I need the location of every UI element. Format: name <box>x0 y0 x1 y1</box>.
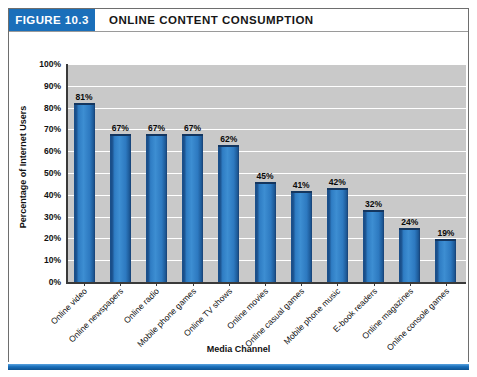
y-axis-tick-label: 50% <box>44 168 61 178</box>
figure-container: FIGURE 10.3 ONLINE CONTENT CONSUMPTION P… <box>8 8 469 362</box>
y-axis-tick-label: 100% <box>39 59 61 69</box>
y-axis-tick-label: 40% <box>44 190 61 200</box>
y-axis-tick-label: 80% <box>44 103 61 113</box>
y-axis-tick-labels: 100%90%80%70%60%50%40%30%20%10%0% <box>29 64 63 282</box>
gridline <box>68 173 466 174</box>
y-axis-tick-label: 90% <box>44 81 61 91</box>
y-axis-tick-label: 60% <box>44 146 61 156</box>
gridline <box>68 64 466 65</box>
gridline <box>68 217 466 218</box>
gridline <box>68 86 466 87</box>
y-axis-tick-label: 10% <box>44 255 61 265</box>
chart-region: Percentage of Internet Users 100%90%80%7… <box>9 32 468 363</box>
figure-title: ONLINE CONTENT CONSUMPTION <box>109 14 314 26</box>
figure-title-bar: ONLINE CONTENT CONSUMPTION <box>95 9 468 31</box>
gridline <box>68 195 466 196</box>
y-axis-tick-label: 0% <box>49 277 61 287</box>
figure-footer-bar <box>8 364 469 370</box>
gridline <box>68 238 466 239</box>
figure-number-label: FIGURE 10.3 <box>15 14 88 26</box>
gridline <box>68 129 466 130</box>
plot-area <box>66 64 466 284</box>
figure-header: FIGURE 10.3 ONLINE CONTENT CONSUMPTION <box>9 9 468 32</box>
y-axis-tick-label: 30% <box>44 212 61 222</box>
gridline <box>68 151 466 152</box>
x-axis-category-label: Online console games <box>384 286 451 353</box>
y-axis-tick-label: 70% <box>44 124 61 134</box>
gridline <box>68 260 466 261</box>
y-axis-title-label: Percentage of Internet Users <box>18 106 28 229</box>
figure-number-tab: FIGURE 10.3 <box>9 9 95 31</box>
x-axis-title: Media Channel <box>9 344 468 354</box>
y-axis-tick-label: 20% <box>44 233 61 243</box>
gridline <box>68 108 466 109</box>
